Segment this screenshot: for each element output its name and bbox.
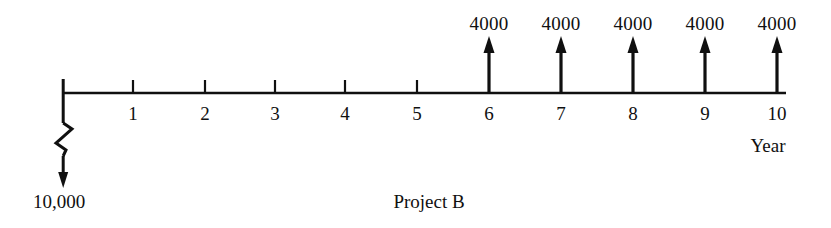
inflow-arrow-year-6: [484, 36, 495, 93]
year-label-8: 8: [628, 104, 638, 123]
outflow-arrowhead-icon: [58, 172, 68, 188]
inflow-arrow-year-10: [772, 36, 783, 93]
outflow-arrow-year-0: [56, 93, 72, 188]
inflow-arrows: [484, 36, 783, 93]
inflow-arrowhead-icon-year-10: [772, 36, 783, 53]
year-label-2: 2: [200, 104, 210, 123]
outflow-amount-label: 10,000: [33, 192, 85, 211]
year-label-1: 1: [128, 104, 138, 123]
inflow-amount-label-year-10: 4000: [757, 14, 796, 33]
inflow-arrow-year-9: [700, 36, 711, 93]
project-caption: Project B: [393, 192, 464, 211]
axis-caption-year: Year: [750, 136, 785, 155]
inflow-amount-label-year-9: 4000: [685, 14, 724, 33]
inflow-arrowhead-icon-year-8: [628, 36, 639, 53]
inflow-amount-label-year-6: 4000: [469, 14, 508, 33]
inflow-amount-label-year-8: 4000: [613, 14, 652, 33]
year-label-9: 9: [700, 104, 710, 123]
year-label-3: 3: [270, 104, 280, 123]
inflow-arrowhead-icon-year-9: [700, 36, 711, 53]
inflow-arrow-year-7: [556, 36, 567, 93]
year-label-6: 6: [484, 104, 494, 123]
cash-flow-diagram: 4000 4000 4000 4000 4000 1 2 3 4 5 6 7 8…: [0, 0, 831, 228]
inflow-arrowhead-icon-year-6: [484, 36, 495, 53]
inflow-arrow-year-8: [628, 36, 639, 93]
year-label-10: 10: [768, 104, 787, 123]
scale-break-zigzag-icon: [56, 123, 72, 156]
year-label-5: 5: [412, 104, 422, 123]
year-label-4: 4: [340, 104, 350, 123]
year-tick-marks: [133, 80, 417, 93]
inflow-amount-label-year-7: 4000: [541, 14, 580, 33]
year-label-7: 7: [556, 104, 566, 123]
inflow-arrowhead-icon-year-7: [556, 36, 567, 53]
